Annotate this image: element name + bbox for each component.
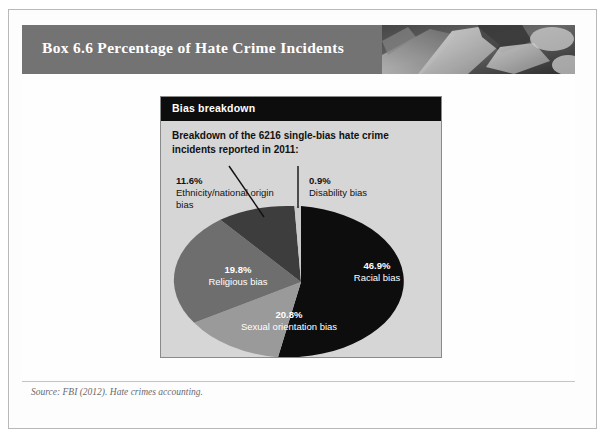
chart-panel: Bias breakdown Breakdown of the 6216 sin… (160, 96, 442, 358)
chart-caption: Breakdown of the 6216 single-bias hate c… (172, 129, 434, 157)
box-title: Box 6.6 Percentage of Hate Crime Inciden… (42, 39, 344, 57)
slice-label-sexual-pct: 20.8% (239, 309, 339, 321)
callout-disability: 0.9% Disability bias (309, 175, 419, 199)
slice-label-racial-pct: 46.9% (329, 260, 425, 272)
header-photograph (382, 25, 575, 74)
slice-label-religious-pct: 19.8% (189, 264, 287, 276)
slice-label-racial-text: Racial bias (354, 272, 400, 283)
source-citation: Source: FBI (2012). Hate crimes accounti… (31, 387, 203, 397)
slice-label-religious: 19.8% Religious bias (189, 264, 287, 288)
chart-title: Bias breakdown (172, 102, 255, 114)
slice-label-racial: 46.9% Racial bias (329, 260, 425, 284)
slice-label-sexual-text: Sexual orientation bias (241, 321, 337, 332)
callout-disability-pct: 0.9% (309, 175, 419, 187)
callout-ethnicity: 11.6% Ethnicity/national origin bias (176, 175, 286, 211)
callout-ethnicity-pct: 11.6% (176, 175, 286, 187)
box-header-bar: Box 6.6 Percentage of Hate Crime Inciden… (22, 25, 575, 74)
callout-disability-label: Disability bias (309, 187, 367, 198)
slice-label-religious-text: Religious bias (208, 276, 267, 287)
callout-ethnicity-label: Ethnicity/national origin bias (176, 187, 274, 210)
page-root: Box 6.6 Percentage of Hate Crime Inciden… (0, 0, 608, 440)
source-divider (22, 381, 575, 382)
slice-label-sexual-orientation: 20.8% Sexual orientation bias (239, 309, 339, 333)
chart-header-bar: Bias breakdown (161, 97, 441, 121)
